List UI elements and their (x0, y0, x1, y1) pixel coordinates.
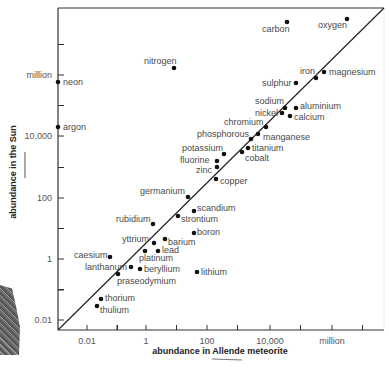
scatter-chart: 0.01110010,000million million10,00010010… (0, 0, 389, 368)
point-marker (314, 76, 319, 81)
x-tick-label: million (319, 336, 345, 346)
data-point-carbon: carbon (262, 20, 290, 34)
point-label: phosphorous (197, 129, 250, 139)
point-marker (176, 214, 181, 219)
point-label: argon (63, 122, 86, 132)
point-marker (283, 106, 288, 111)
point-label: neon (63, 77, 83, 87)
point-marker (215, 159, 220, 164)
point-marker (151, 222, 156, 227)
data-point-aluminium: aluminium (294, 101, 341, 111)
point-marker (56, 125, 61, 130)
data-point-scandium: scandium (192, 203, 236, 213)
point-marker (264, 125, 269, 130)
point-label: thorium (105, 293, 135, 303)
point-marker (192, 231, 197, 236)
data-point-beryllium: beryllium (138, 264, 180, 274)
data-point-nitrogen: nitrogen (144, 56, 177, 70)
point-label: yttrium (122, 234, 149, 244)
point-label: praseodymium (117, 276, 176, 286)
point-label: potassium (182, 143, 223, 153)
data-point-caesium: caesium (74, 250, 112, 260)
point-marker (172, 66, 177, 71)
data-point-manganese: manganese (256, 132, 310, 142)
point-marker (95, 304, 100, 309)
point-label: lanthanum (85, 262, 127, 272)
point-label: rubidium (116, 214, 151, 224)
point-label: lead (162, 245, 179, 255)
point-label: calcium (294, 112, 325, 122)
point-label: scandium (197, 203, 236, 213)
point-label: nitrogen (144, 56, 177, 66)
point-label: zinc (196, 165, 213, 175)
point-marker (186, 195, 191, 200)
underline-mark (212, 359, 242, 360)
point-label: copper (220, 176, 248, 186)
data-point-titanium: titanium (246, 143, 284, 153)
point-marker (322, 70, 327, 75)
point-marker (195, 270, 200, 275)
point-label: sodium (255, 96, 284, 106)
data-point-argon: argon (56, 122, 86, 132)
plot-frame (58, 8, 384, 330)
point-label: strontium (181, 214, 218, 224)
point-label: caesium (74, 250, 108, 260)
point-marker (249, 137, 254, 142)
data-point-phosphorous: phosphorous (197, 129, 253, 141)
data-point-calcium: calcium (288, 112, 325, 122)
point-label: aluminium (300, 101, 341, 111)
y-tick-label: 100 (37, 193, 52, 203)
point-marker (192, 209, 197, 214)
data-point-strontium: strontium (176, 214, 218, 224)
y-tick-label: 10,000 (24, 131, 52, 141)
point-label: fluorine (180, 155, 210, 165)
data-point-sulphur: sulphur (262, 78, 298, 88)
data-point-oxygen: oxygen (318, 17, 349, 30)
point-label: boron (197, 227, 220, 237)
point-label: sulphur (262, 78, 292, 88)
point-marker (99, 297, 104, 302)
data-point-boron: boron (192, 227, 220, 237)
point-marker (240, 150, 245, 155)
x-tick-label: 10,000 (256, 336, 284, 346)
point-marker (280, 111, 285, 116)
y-tick-label: 0.01 (34, 315, 52, 325)
data-point-thulium: thulium (95, 304, 129, 315)
point-marker (294, 106, 299, 111)
point-label: iron (300, 66, 315, 76)
data-point-iron: iron (300, 66, 318, 80)
point-marker (56, 80, 61, 85)
point-marker (163, 237, 168, 242)
y-tick-label: million (26, 70, 52, 80)
data-point-neon: neon (56, 77, 83, 87)
y-axis-title: abundance in the Sun (8, 125, 18, 219)
x-axis-title: abundance in Allende meteorite (152, 346, 288, 356)
point-marker (256, 132, 261, 137)
point-marker (246, 146, 251, 151)
point-label: lithium (201, 267, 227, 277)
data-point-fluorine: fluorine (180, 155, 219, 165)
data-point-lithium: lithium (195, 267, 227, 277)
data-point-copper: copper (214, 176, 248, 186)
point-marker (214, 177, 219, 182)
point-label: magnesium (329, 67, 376, 77)
point-marker (288, 114, 293, 119)
x-tick-label: 1 (143, 336, 148, 346)
data-point-rubidium: rubidium (116, 214, 155, 226)
point-marker (294, 81, 299, 86)
y-tick-label: 1 (47, 254, 52, 264)
x-ticks: 0.01110010,000million (78, 325, 362, 346)
point-label: cobalt (245, 153, 270, 163)
point-label: chromium (224, 117, 264, 127)
point-marker (138, 267, 143, 272)
point-label: carbon (262, 24, 290, 34)
point-label: germanium (140, 186, 185, 196)
point-marker (215, 165, 220, 170)
point-marker (129, 265, 134, 270)
x-tick-label: 100 (199, 336, 214, 346)
data-point-thorium: thorium (99, 293, 135, 303)
point-marker (156, 249, 161, 254)
data-points: oxygencarbonnitrogenneonargonmagnesiumir… (56, 17, 376, 315)
point-marker (152, 241, 157, 246)
data-point-chromium: chromium (224, 117, 268, 129)
